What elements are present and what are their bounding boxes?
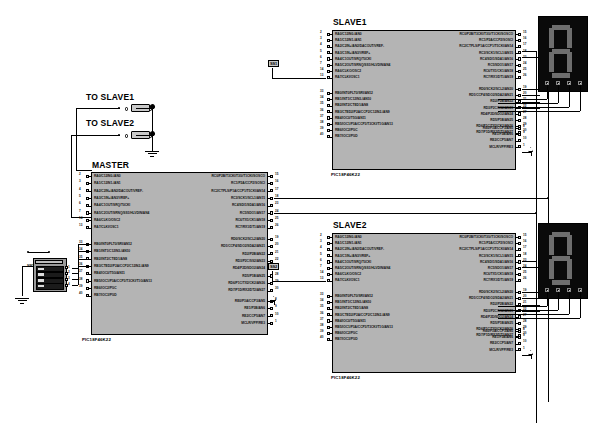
pin-number-slave1-5: 5: [320, 50, 322, 53]
pin-pad-slave1-27[interactable]: [518, 112, 521, 115]
pin-pad-slave2-15[interactable]: [518, 236, 521, 239]
pin-pad-slave1-17[interactable]: [518, 45, 521, 48]
pin-pad-slave1-1[interactable]: [518, 145, 521, 148]
pin-number-master-19: 19: [275, 236, 278, 239]
pin-pad-slave1-24[interactable]: [518, 64, 521, 67]
pin-pad-master-21[interactable]: [270, 252, 273, 255]
pin-pad-slave1-16[interactable]: [518, 39, 521, 42]
pin-pad-master-10[interactable]: [270, 314, 273, 317]
pin-pad-slave2-10[interactable]: [518, 342, 521, 345]
pin-pad-master-23[interactable]: [270, 204, 273, 207]
wire-portd0-2: [522, 102, 540, 103]
pin-number-slave1-1: 1: [523, 144, 525, 147]
pin-number-slave1-28: 28: [523, 117, 526, 120]
pin-pad-slave2-28[interactable]: [518, 322, 521, 325]
pin-stub: [516, 350, 519, 351]
pin-pad-master-25[interactable]: [270, 219, 273, 222]
pin-pad-master-1[interactable]: [270, 322, 273, 325]
pin-label-master-RB7: RB7/IOC3/PGD: [94, 294, 117, 298]
wire-ss1-run: [272, 78, 326, 79]
pin-pad-slave1-19[interactable]: [518, 88, 521, 91]
switch-terminal-left-sw-slave1[interactable]: [125, 107, 128, 110]
segment-b-display-slave1: [567, 28, 572, 48]
dip-pad-3[interactable]: [65, 278, 68, 281]
pin-pad-master-30[interactable]: [270, 289, 273, 292]
switch-label-sw-slave1: TO SLAVE1: [86, 92, 134, 102]
pin-label-master-RC3: RC3/SCK1/SCL1/AN15: [91, 197, 265, 201]
pin-stub: [516, 134, 519, 135]
pin-pad-master-26[interactable]: [270, 226, 273, 229]
pin-pad-slave2-1[interactable]: [518, 348, 521, 351]
pin-pad-master-24[interactable]: [270, 211, 273, 214]
dip-pad-4[interactable]: [65, 284, 68, 287]
pin-label-slave1-RC4: RC4/SDI1/SDA1/AN16: [332, 58, 513, 62]
pin-number-slave1-34: 34: [320, 96, 323, 99]
pin-pad-slave2-26[interactable]: [518, 279, 521, 282]
wire-mclr-master: [268, 301, 274, 302]
pin-pad-master-29[interactable]: [270, 282, 273, 285]
pin-pad-slave2-16[interactable]: [518, 242, 521, 245]
pin-stub: [268, 323, 271, 324]
net-label-ss2: SS2: [268, 263, 279, 270]
pin-number-master-23: 23: [275, 202, 278, 205]
pin-number-slave2-2: 2: [320, 234, 322, 237]
pin-pad-slave1-8[interactable]: [518, 127, 521, 130]
mclr-ground-slave1-stem: [531, 152, 532, 156]
pin-pad-master-20[interactable]: [270, 245, 273, 248]
segment-g-display-slave1: [552, 49, 570, 54]
pin-pad-slave2-23[interactable]: [518, 260, 521, 263]
dip-pad-1[interactable]: [65, 266, 68, 269]
pin-label-slave2-RD3: RD3/P2C/SS2/AN23: [332, 310, 513, 314]
pin-pad-slave1-15[interactable]: [518, 33, 521, 36]
wire-dip-to-rb1: [78, 251, 91, 252]
pin-number-slave2-33: 33: [320, 293, 323, 296]
pin-pad-slave2-19[interactable]: [518, 291, 521, 294]
pin-pad-slave1-26[interactable]: [518, 76, 521, 79]
pin-number-master-37: 37: [79, 270, 82, 273]
pin-pad-slave2-8[interactable]: [518, 330, 521, 333]
pin-number-slave1-7: 7: [320, 62, 322, 65]
dip-switch-position-4[interactable]: [36, 283, 64, 289]
pin-number-master-15: 15: [275, 173, 278, 176]
pin-label-slave1-RE1: RE1/P3B/AN6: [332, 133, 513, 137]
pin-label-slave2-RC5: RC5/SDO1/AN17: [332, 267, 513, 271]
wire-disp1-pin0-h: [498, 306, 547, 307]
pin-number-master-16: 16: [275, 180, 278, 183]
pin-pad-slave1-25[interactable]: [518, 70, 521, 73]
mcu-slave1-part-number: PIC18F46K22: [331, 172, 360, 177]
dip-pad-2[interactable]: [65, 272, 68, 275]
pin-pad-slave1-20[interactable]: [518, 94, 521, 97]
pin-pad-master-15[interactable]: [270, 175, 273, 178]
pin-pad-slave2-18[interactable]: [518, 254, 521, 257]
pin-stub: [516, 147, 519, 148]
pin-pad-slave2-9[interactable]: [518, 336, 521, 339]
pin-pad-slave2-25[interactable]: [518, 273, 521, 276]
pin-pad-slave2-20[interactable]: [518, 297, 521, 300]
pin-pad-master-19[interactable]: [270, 238, 273, 241]
pin-stub: [268, 276, 271, 277]
pin-label-slave2-RC3: RC3/SCK1/SCL1/AN15: [332, 255, 513, 259]
pin-pad-slave2-17[interactable]: [518, 248, 521, 251]
pin-label-slave2-RC0: RC0/P2B/T3CKI/T3G/T1CKI/SOSCO: [332, 236, 513, 240]
pin-pad-slave2-24[interactable]: [518, 267, 521, 270]
pin-pad-slave1-18[interactable]: [518, 51, 521, 54]
switch-terminal-left-sw-slave2[interactable]: [125, 134, 128, 137]
pin-number-slave1-10: 10: [523, 137, 526, 140]
pin-pad-slave1-9[interactable]: [518, 133, 521, 136]
mcu-slave1-title: SLAVE1: [333, 17, 367, 27]
pin-stub: [516, 53, 519, 54]
pin-pad-master-18[interactable]: [270, 197, 273, 200]
pin-pad-slave1-23[interactable]: [518, 57, 521, 60]
pin-pad-slave1-28[interactable]: [518, 119, 521, 122]
wire-sw1-into-master: [76, 170, 92, 171]
pin-pad-slave1-10[interactable]: [518, 139, 521, 142]
pin-pad-master-17[interactable]: [270, 189, 273, 192]
wire-disp1-pin3: [580, 292, 581, 318]
pin-stub: [268, 220, 271, 221]
pin-number-slave2-35: 35: [320, 305, 323, 308]
mclr-ground-slave2-stem: [531, 355, 532, 359]
pin-number-slave2-34: 34: [320, 299, 323, 302]
pin-pad-master-9[interactable]: [270, 307, 273, 310]
pin-number-slave1-17: 17: [523, 43, 526, 46]
pin-pad-master-16[interactable]: [270, 182, 273, 185]
